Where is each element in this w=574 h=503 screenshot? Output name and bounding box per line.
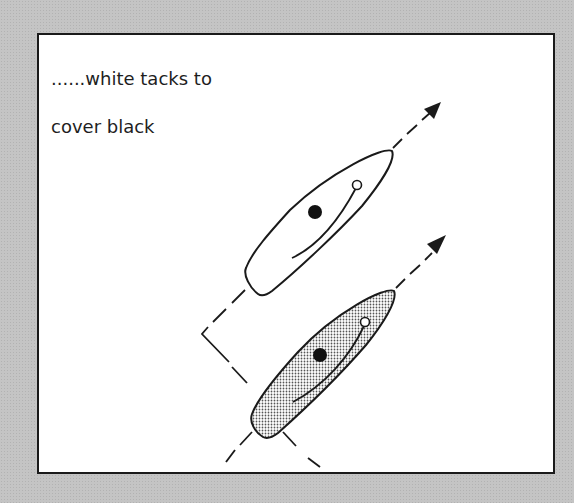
tactics-diagram (0, 0, 574, 503)
black-boat-arrow-icon (427, 235, 446, 254)
white-boat (245, 150, 392, 295)
white-boat-hull (245, 150, 392, 295)
black-boat-mast-icon (361, 318, 370, 327)
black-boat-hull (251, 290, 394, 438)
white-boat-mast-icon (353, 181, 362, 190)
white-boat-course-line (393, 113, 430, 148)
white-boat-helmsman-icon (308, 205, 322, 219)
black-boat-course-line (396, 253, 432, 288)
black-boat-helmsman-icon (313, 348, 327, 362)
black-boat (251, 290, 394, 438)
